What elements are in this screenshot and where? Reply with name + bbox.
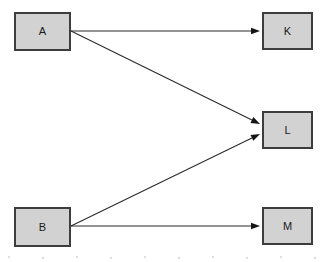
scan-artifact [144, 256, 146, 258]
scan-artifact [76, 256, 78, 258]
scan-artifact [314, 257, 316, 259]
arrowhead-layer [250, 28, 260, 230]
node-label: K [284, 26, 291, 37]
node-l[interactable]: L [262, 111, 313, 149]
scan-artifact [178, 257, 180, 259]
scan-artifact [110, 257, 112, 259]
node-k[interactable]: K [262, 12, 313, 50]
arrowhead-icon-a-to-l [250, 117, 260, 124]
node-label: M [283, 221, 292, 232]
node-a[interactable]: A [14, 12, 71, 51]
edge-a-to-l [71, 31, 252, 120]
edge-b-to-l [71, 138, 252, 226]
scan-artifact [246, 257, 248, 259]
edge-layer [71, 31, 252, 226]
node-b[interactable]: B [14, 207, 71, 247]
scan-artifact [280, 256, 282, 258]
scan-artifact [212, 256, 214, 258]
scan-artifact [42, 257, 44, 259]
scan-artifact [8, 256, 10, 258]
node-label: A [39, 26, 46, 37]
arrowhead-icon-a-to-k [251, 28, 260, 35]
node-label: L [284, 125, 290, 136]
node-m[interactable]: M [262, 207, 313, 245]
arrowhead-icon-b-to-m [251, 223, 260, 230]
arrowhead-icon-b-to-l [250, 134, 260, 141]
node-label: B [39, 222, 46, 233]
